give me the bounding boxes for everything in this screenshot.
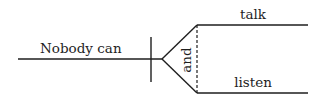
- subject-text: Nobody can: [40, 40, 122, 56]
- sentence-diagram: Nobody can and talk listen: [0, 0, 323, 104]
- predicate-text-bottom: listen: [234, 74, 272, 90]
- conjunction-text: and: [178, 47, 194, 73]
- predicate-text-top: talk: [240, 6, 267, 22]
